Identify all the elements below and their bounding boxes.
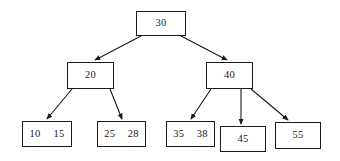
- tree-node-internal-right: 40: [206, 62, 253, 89]
- tree-node-leaf-4: 45: [220, 126, 266, 152]
- tree-edge: [181, 36, 227, 60]
- node-key: 28: [122, 122, 146, 146]
- node-key: 35: [167, 122, 191, 146]
- tree-node-leaf-5: 55: [275, 122, 321, 149]
- tree-node-root: 30: [136, 11, 186, 36]
- node-key: 30: [137, 12, 185, 35]
- tree-node-leaf-3: 3538: [166, 121, 215, 147]
- tree-node-internal-left: 20: [67, 62, 114, 89]
- node-key: 55: [276, 123, 320, 148]
- node-key: 15: [47, 122, 71, 146]
- node-key: 40: [207, 63, 252, 88]
- btree-diagram: 3020401015252835384555: [0, 0, 340, 161]
- tree-edge: [251, 89, 288, 120]
- node-key: 20: [68, 63, 113, 88]
- tree-node-leaf-1: 1015: [22, 121, 72, 147]
- tree-edge: [191, 89, 211, 119]
- node-key: 45: [221, 127, 265, 151]
- tree-edge: [95, 36, 141, 60]
- node-key: 25: [98, 122, 122, 146]
- node-key: 10: [23, 122, 47, 146]
- tree-node-leaf-2: 2528: [97, 121, 146, 147]
- tree-edge: [47, 89, 72, 119]
- node-key: 38: [191, 122, 215, 146]
- tree-edge: [110, 89, 122, 119]
